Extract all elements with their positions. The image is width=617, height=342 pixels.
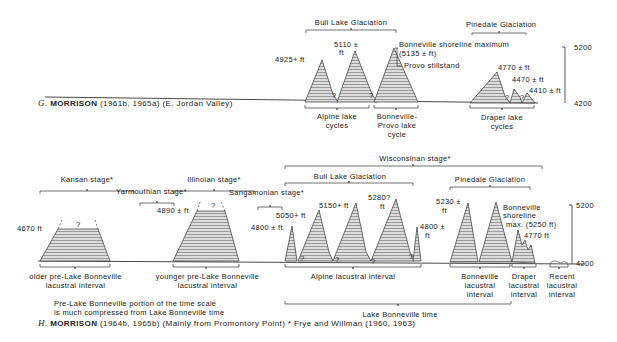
younger-interval-label-2: lacustral interval: [145, 281, 270, 290]
scale-bottom-h: 4200: [576, 259, 594, 268]
peak-label-4925: 4925+ ft: [275, 55, 305, 64]
recent-interval-label-1: Recent: [543, 272, 581, 281]
scale-top-g: 5200: [574, 43, 592, 52]
unknown-mark: ?: [300, 254, 304, 263]
scale-top-h: 5200: [576, 201, 594, 210]
bonneville-shoreline-max-label: Bonneville shoreline maximum: [399, 40, 509, 49]
time-scale-note-1: Pre-Lake Bonneville portion of the time …: [54, 299, 216, 308]
unknown-mark: ?: [211, 201, 215, 210]
wisconsinan-stage-label: Wisconsinan stage*: [340, 154, 490, 163]
peak-label-5230: 5230 ±: [436, 197, 461, 206]
bonneville-interval-label-2: lacustral: [450, 281, 510, 290]
panel-g-author: MORRISON: [50, 99, 97, 108]
bonneville-provo-cycle-label-2: Provo lake: [374, 121, 420, 130]
panel-h-citation: (1964b, 1965b) (Mainly from Promontory P…: [100, 319, 415, 328]
pinedale-glaciation-label-h: Pinedale Glaciation: [450, 175, 530, 184]
draper-interval-label-3: interval: [505, 290, 543, 299]
draper-interval-label-2: lacustral: [505, 281, 543, 290]
panel-g-citation: (1961b, 1965a) (E. Jordan Valley): [100, 99, 233, 108]
draper-interval-label-1: Draper: [505, 272, 543, 281]
recent-interval-label-3: interval: [543, 290, 581, 299]
peak-label-5150: 5150+ ft: [319, 201, 349, 210]
bonneville-shoreline-label-h-2: shoreline: [503, 211, 536, 220]
unknown-mark: ?: [76, 220, 80, 229]
yarmouthian-stage-label: Yarmouthian stage*: [116, 187, 187, 196]
unknown-mark: ?: [369, 91, 373, 100]
unknown-mark: ?: [332, 91, 336, 100]
unknown-mark: ?: [371, 257, 375, 266]
peak-label-4800-bull-lake-unit: ft: [425, 231, 430, 240]
peak-label-4470: 4470 ± ft: [512, 75, 544, 84]
older-interval-label-2: lacustral interval: [18, 281, 133, 290]
illinoian-stage-label: Illinoian stage*: [174, 175, 254, 184]
kansan-stage-label: Kansan stage*: [40, 175, 134, 184]
unknown-mark: ?: [335, 255, 339, 264]
younger-interval-label-1: younger pre-Lake Bonneville: [145, 272, 270, 281]
panel-h-letter: H.: [38, 318, 48, 328]
peak-label-4800-bull-lake: 4800 ±: [420, 222, 445, 231]
bonneville-shoreline-label-h-3: max. (5250 ft): [506, 220, 556, 229]
older-interval-label-1: older pre-Lake Bonneville: [18, 272, 133, 281]
peak-label-5110: 5110 ±: [334, 40, 358, 49]
bonneville-shoreline-elevation: (5135 ± ft): [399, 49, 436, 58]
peak-label-5110-unit: ft: [339, 48, 344, 57]
unknown-mark: ?: [409, 252, 413, 261]
panel-g-caption: G. MORRISON (1961b, 1965a) (E. Jordan Va…: [38, 98, 233, 108]
bull-lake-glaciation-label-g: Bull Lake Glaciation: [306, 18, 396, 27]
alpine-lacustral-interval-label: Alpine lacustral interval: [285, 272, 421, 281]
lake-chronology-diagram: Bull Lake Glaciation Pinedale Glaciation…: [0, 0, 617, 342]
panel-h-author: MORRISON: [50, 319, 97, 328]
provo-stillstand-label: Provo stillstand: [404, 61, 460, 70]
alpine-lake-cycles-label-2: cycles: [305, 121, 369, 130]
panel-g-letter: G.: [38, 98, 48, 108]
peak-label-4800-sangamonian: 4800 ± ft: [251, 223, 283, 232]
peak-label-4890: 4890 ± ft: [157, 206, 189, 215]
sangamonian-stage-label: Sangamonian stage*: [229, 188, 304, 197]
scale-bottom-g: 4200: [574, 99, 592, 108]
peak-label-5230-unit: ft: [442, 206, 447, 215]
unknown-mark: ?: [520, 93, 524, 102]
bonneville-interval-label-1: Bonneville: [450, 272, 510, 281]
peak-label-4670: 4670 ft: [17, 224, 42, 233]
alpine-lake-cycles-label-1: Alpine lake: [305, 112, 369, 121]
time-scale-note-2: is much compressed from Lake Bonneville …: [54, 308, 224, 317]
draper-lake-cycles-label-2: cycles: [470, 122, 534, 131]
draper-lake-cycles-label-1: Draper lake: [470, 113, 534, 122]
peak-label-5050: 5050+ ft: [276, 211, 306, 220]
peak-label-5280: 5280?: [368, 193, 390, 202]
bonneville-interval-label-3: interval: [450, 290, 510, 299]
bonneville-provo-cycle-label-1: Bonneville-: [374, 112, 420, 121]
panel-h-caption: H. MORRISON (1964b, 1965b) (Mainly from …: [38, 318, 415, 328]
pinedale-glaciation-label-g: Pinedale Glaciation: [466, 20, 532, 29]
peak-label-4770-h: 4770 ft: [524, 231, 549, 240]
peak-label-4770-g: 4770 ± ft: [498, 63, 530, 72]
recent-interval-label-2: lacustral: [543, 281, 581, 290]
bonneville-provo-cycle-label-3: cycle: [374, 130, 420, 139]
unknown-mark: ?: [505, 93, 509, 102]
peak-label-5280-unit: ft: [380, 202, 385, 211]
bull-lake-glaciation-label-h: Bull Lake Glaciation: [300, 172, 400, 181]
peak-label-4410: 4410 ± ft: [529, 86, 561, 95]
